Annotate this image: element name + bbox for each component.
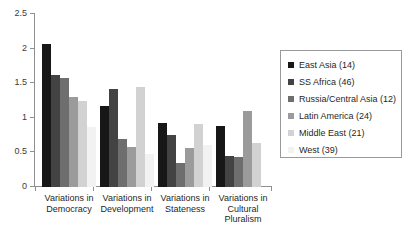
legend-item-label: SS Africa (46)	[299, 78, 355, 87]
bar	[145, 154, 154, 187]
legend-swatch-icon	[288, 79, 294, 85]
legend-item-label: West (39)	[299, 146, 338, 155]
legend-item-label: Latin America (24)	[299, 112, 372, 121]
bar-group	[216, 13, 270, 187]
legend-swatch-icon	[288, 130, 294, 136]
bar-group	[158, 13, 212, 187]
bar	[167, 135, 176, 187]
x-axis-category-label-line: Cultural	[202, 204, 284, 215]
bar	[60, 78, 69, 187]
legend-item-label: East Asia (14)	[299, 61, 355, 70]
bar	[252, 143, 261, 187]
bar	[176, 163, 185, 187]
legend-swatch-icon	[288, 62, 294, 68]
legend-item[interactable]: Middle East (21)	[288, 125, 401, 141]
legend-item[interactable]: West (39)	[288, 142, 401, 158]
y-axis-tick-label: 1	[0, 113, 27, 122]
bar	[42, 44, 51, 187]
legend-item[interactable]: Latin America (24)	[288, 108, 401, 124]
legend-item[interactable]: East Asia (14)	[288, 57, 401, 73]
legend-swatch-icon	[288, 147, 294, 153]
y-axis-tick	[30, 48, 35, 49]
x-axis-tick	[209, 187, 210, 191]
bar	[100, 106, 109, 187]
bar	[127, 147, 136, 187]
y-axis-tick-label: 2	[0, 44, 27, 53]
legend-item-label: Russia/Central Asia (12)	[299, 95, 396, 104]
bar	[78, 101, 87, 188]
bar-group	[100, 13, 154, 187]
bar-chart: 00.511.522.5 Variations inDemocracyVaria…	[0, 0, 409, 233]
bar	[225, 156, 234, 187]
legend-item[interactable]: SS Africa (46)	[288, 74, 401, 90]
y-axis-tick	[30, 13, 35, 14]
x-axis-tick	[151, 187, 152, 191]
x-axis-tick	[35, 187, 36, 191]
legend-swatch-icon	[288, 96, 294, 102]
y-axis-tick	[30, 82, 35, 83]
bar	[216, 126, 225, 187]
bar	[203, 145, 212, 187]
legend-item[interactable]: Russia/Central Asia (12)	[288, 91, 401, 107]
x-axis-category-label: Variations inCulturalPluralism	[202, 193, 284, 225]
y-axis-tick-label: 0	[0, 182, 27, 191]
x-axis-tick	[271, 187, 272, 191]
bar	[194, 124, 203, 187]
x-axis-category-label-line: Variations in	[202, 193, 284, 204]
bar	[87, 127, 96, 187]
y-axis-tick	[30, 117, 35, 118]
legend: East Asia (14)SS Africa (46)Russia/Centr…	[280, 50, 402, 158]
bar	[158, 123, 167, 187]
y-axis-line	[34, 13, 35, 187]
bar	[136, 87, 145, 187]
bar	[243, 111, 252, 187]
bar	[109, 89, 118, 187]
x-axis-category-label-line: Pluralism	[202, 214, 284, 225]
bar	[185, 148, 194, 187]
y-axis-tick-label: 2.5	[0, 9, 27, 18]
bar	[69, 97, 78, 187]
bar	[234, 157, 243, 187]
legend-swatch-icon	[288, 113, 294, 119]
plot-area: 00.511.522.5 Variations inDemocracyVaria…	[0, 0, 272, 233]
bar	[51, 75, 60, 187]
x-axis-tick	[93, 187, 94, 191]
bar-group	[42, 13, 96, 187]
y-axis-tick	[30, 151, 35, 152]
y-axis-tick-label: 0.5	[0, 147, 27, 156]
legend-item-label: Middle East (21)	[299, 129, 365, 138]
y-axis-tick-label: 1.5	[0, 78, 27, 87]
bar	[118, 139, 127, 187]
